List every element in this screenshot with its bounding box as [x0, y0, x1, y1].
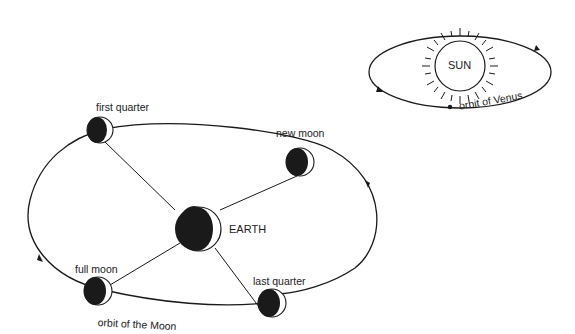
moon-new-moon-icon: [286, 148, 314, 176]
sun-label: SUN: [448, 59, 471, 71]
venus-dot: [448, 105, 452, 109]
earth-icon: [175, 206, 221, 251]
moon-last-quarter-icon: [258, 289, 286, 317]
first-quarter-label: first quarter: [96, 101, 149, 113]
earth-label: EARTH: [229, 223, 266, 235]
moon-full-moon-icon: [84, 277, 112, 305]
full-moon-label: full moon: [75, 263, 118, 275]
orbit-arrow-icon: [534, 45, 540, 51]
last-quarter-label: last quarter: [253, 275, 306, 287]
moon-first-quarter-icon: [87, 117, 113, 143]
new-moon-label: new moon: [276, 127, 324, 139]
